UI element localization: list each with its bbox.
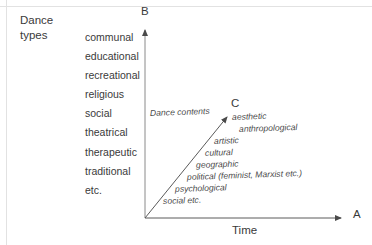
axis-a-name: Time xyxy=(232,224,257,236)
dance-analysis-diagram: Dance types communal educational recreat… xyxy=(0,0,372,245)
list-item: social etc. xyxy=(163,195,202,206)
axis-a-letter: A xyxy=(353,208,361,220)
axis-b-letter: B xyxy=(141,5,149,17)
list-item: cultural xyxy=(205,147,233,158)
axis-c-letter: C xyxy=(231,97,239,109)
dance-contents-list: aesthetic anthropological artistic cultu… xyxy=(0,0,372,245)
list-item: aesthetic xyxy=(232,111,267,122)
list-item: political (feminist, Marxist etc.) xyxy=(187,168,302,182)
list-item: geographic xyxy=(196,159,239,170)
list-item: artistic xyxy=(214,135,239,146)
list-item: psychological xyxy=(175,182,227,194)
list-item: anthropological xyxy=(239,122,298,134)
